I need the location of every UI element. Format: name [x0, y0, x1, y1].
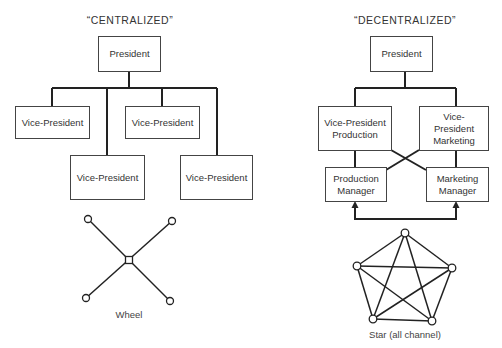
- vp-marketing-box: Vice-President Marketing: [419, 106, 489, 151]
- wheel-label: Wheel: [99, 309, 159, 320]
- production-manager-box: Production Manager: [325, 167, 387, 202]
- centralized-president-box: President: [98, 36, 161, 72]
- centralized-vp-box-2: Vice-President: [125, 106, 200, 139]
- centralized-title: “CENTRALIZED”: [60, 14, 200, 26]
- vp-production-box: Vice-President Production: [318, 106, 392, 151]
- centralized-vp-box-4: Vice-President: [180, 155, 253, 200]
- centralized-vp-box-3: Vice-President: [70, 155, 145, 200]
- decentralized-title: “DECENTRALIZED”: [335, 14, 475, 26]
- star-network: [357, 233, 452, 321]
- marketing-manager-box: Marketing Manager: [426, 167, 489, 202]
- decentralized-president-box: President: [370, 36, 433, 72]
- star-label: Star (all channel): [350, 329, 460, 340]
- centralized-vp-box-1: Vice-President: [15, 106, 90, 139]
